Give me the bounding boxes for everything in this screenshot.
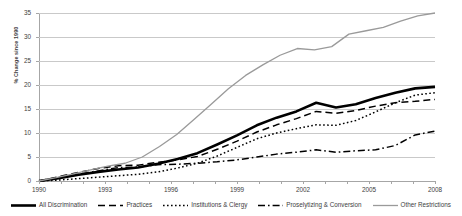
x-tick-mark	[435, 181, 436, 184]
x-tick-mark	[149, 181, 150, 184]
y-tick-mark	[36, 61, 39, 62]
solid-thin-gray-line-swatch	[373, 202, 398, 209]
x-tick-mark	[259, 181, 260, 184]
x-tick-mark	[39, 181, 40, 184]
legend-label: Practices	[126, 202, 152, 208]
legend-item-practices[interactable]: Practices	[98, 202, 152, 209]
y-tick-label: 10	[5, 129, 31, 136]
legend-label: Proselytizing & Conversion	[286, 202, 361, 208]
legend-item-all-discrimination[interactable]: All Discrimination	[11, 202, 87, 209]
x-tick-mark	[83, 181, 84, 184]
legend-label: All Discrimination	[39, 202, 87, 208]
y-tick-mark	[36, 37, 39, 38]
x-tick-label: 2008	[415, 186, 455, 193]
x-tick-mark	[105, 181, 106, 184]
legend-label: Other Restrictions	[401, 202, 451, 208]
x-tick-mark	[237, 181, 238, 184]
x-tick-label: 2005	[349, 186, 389, 193]
dash-dot-line-swatch	[258, 202, 283, 209]
y-tick-mark	[36, 85, 39, 86]
plot-area	[39, 13, 435, 181]
chart-legend: All DiscriminationPracticesInstitutions …	[0, 198, 462, 212]
series-line-proselytizing-conversion	[39, 131, 435, 181]
x-tick-mark	[391, 181, 392, 184]
series-line-all-discrimination	[39, 87, 435, 181]
x-tick-mark	[347, 181, 348, 184]
legend-item-proselytizing-conversion[interactable]: Proselytizing & Conversion	[258, 202, 361, 209]
y-tick-label: 20	[5, 81, 31, 88]
x-tick-mark	[127, 181, 128, 184]
x-tick-mark	[281, 181, 282, 184]
y-tick-label: 35	[5, 9, 31, 16]
x-tick-label: 1996	[151, 186, 191, 193]
x-tick-label: 1993	[85, 186, 125, 193]
y-tick-label: 25	[5, 57, 31, 64]
y-tick-label: 30	[5, 33, 31, 40]
x-tick-mark	[369, 181, 370, 184]
series-lines	[39, 13, 435, 181]
x-tick-label: 1990	[19, 186, 59, 193]
line-chart: % Change since 1990 05101520253035 19901…	[0, 0, 462, 216]
legend-label: Institutions & Clergy	[191, 202, 247, 208]
x-tick-label: 2002	[283, 186, 323, 193]
dotted-line-swatch	[163, 202, 188, 209]
x-tick-label: 1999	[217, 186, 257, 193]
dashed-line-swatch	[98, 202, 123, 209]
y-tick-mark	[36, 133, 39, 134]
y-tick-label: 15	[5, 105, 31, 112]
solid-thick-line-swatch	[11, 202, 36, 209]
y-tick-mark	[36, 13, 39, 14]
legend-item-other-restrictions[interactable]: Other Restrictions	[373, 202, 451, 209]
x-tick-mark	[325, 181, 326, 184]
legend-item-institutions-clergy[interactable]: Institutions & Clergy	[163, 202, 247, 209]
y-tick-mark	[36, 109, 39, 110]
x-tick-mark	[303, 181, 304, 184]
x-tick-mark	[61, 181, 62, 184]
x-tick-mark	[215, 181, 216, 184]
y-tick-label: 5	[5, 153, 31, 160]
x-tick-mark	[413, 181, 414, 184]
y-tick-mark	[36, 157, 39, 158]
x-tick-mark	[193, 181, 194, 184]
x-tick-mark	[171, 181, 172, 184]
y-tick-label: 0	[5, 177, 31, 184]
